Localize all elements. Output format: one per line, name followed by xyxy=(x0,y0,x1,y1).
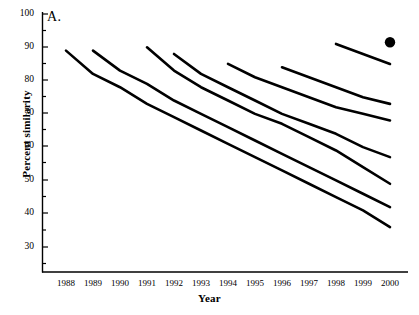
y-tick-label-50: 50 xyxy=(8,174,34,184)
series-line-cohort-1996 xyxy=(282,67,390,104)
x-axis-title: Year xyxy=(0,292,419,304)
y-tick-label-40: 40 xyxy=(8,207,34,217)
data-series-group xyxy=(66,44,390,227)
y-tick-label-90: 90 xyxy=(8,41,34,51)
panel-label: A. xyxy=(47,9,61,25)
series-line-cohort-1989 xyxy=(93,51,390,207)
chart-figure: A. Percent similarity Year 100 90 80 70 … xyxy=(0,0,419,315)
line-chart-plot xyxy=(0,0,419,315)
y-tick-label-30: 30 xyxy=(8,241,34,251)
y-tick-label-60: 60 xyxy=(8,140,34,150)
data-markers-group xyxy=(385,37,395,47)
y-axis-ticks xyxy=(43,14,49,264)
series-line-cohort-1998 xyxy=(336,44,390,64)
marker-solid-point-2000 xyxy=(385,37,395,47)
y-tick-label-100: 100 xyxy=(8,8,34,18)
series-line-cohort-1988 xyxy=(66,51,390,227)
y-tick-label-70: 70 xyxy=(8,107,34,117)
y-tick-label-80: 80 xyxy=(8,74,34,84)
series-line-cohort-1992 xyxy=(174,54,390,157)
x-tick-label-2000: 2000 xyxy=(373,278,407,288)
